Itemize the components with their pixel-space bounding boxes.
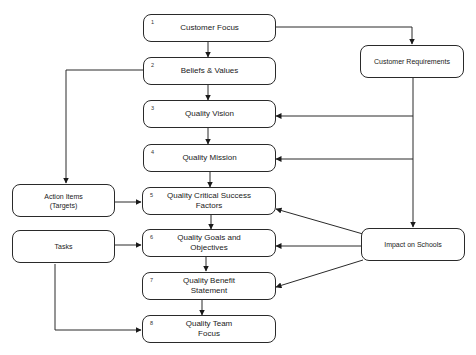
step-goals-objectives: 6 Quality Goals and Objectives	[142, 229, 276, 257]
arrow-impact-5	[276, 209, 363, 234]
box-label: Impact on Schools	[384, 240, 442, 249]
step-number: 5	[150, 190, 153, 200]
step-number: 8	[150, 318, 153, 328]
step-quality-mission: 4 Quality Mission	[143, 144, 276, 172]
step-label: Customer Focus	[180, 23, 239, 33]
step-number: 3	[151, 103, 154, 113]
tasks-box: Tasks	[12, 230, 115, 263]
box-label: Action Items (Targets)	[44, 192, 83, 210]
step-customer-focus: 1 Customer Focus	[143, 14, 276, 42]
action-items-box: Action Items (Targets)	[12, 184, 115, 217]
step-critical-success-factors: 5 Quality Critical Success Factors	[142, 187, 276, 215]
step-beliefs-values: 2 Beliefs & Values	[143, 57, 276, 85]
arrow-1-req	[276, 27, 412, 44]
step-number: 4	[151, 147, 154, 157]
step-quality-vision: 3 Quality Vision	[143, 100, 276, 128]
step-label: Quality Mission	[182, 153, 236, 163]
step-label: Quality Critical Success Factors	[167, 191, 251, 211]
step-team-focus: 8 Quality Team Focus	[142, 315, 276, 343]
box-label: Tasks	[55, 242, 73, 251]
step-number: 7	[150, 275, 153, 285]
step-label: Quality Team Focus	[186, 319, 233, 339]
arrow-impact-7	[276, 260, 363, 287]
arrow-2-action	[66, 70, 143, 183]
customer-requirements-box: Customer Requirements	[360, 45, 464, 78]
arrow-tasks-8	[55, 264, 141, 330]
step-label: Quality Benefit Statement	[183, 276, 235, 296]
box-label: Customer Requirements	[374, 57, 450, 66]
step-number: 1	[151, 17, 154, 27]
step-number: 2	[151, 60, 154, 70]
step-label: Quality Goals and Objectives	[177, 233, 241, 253]
step-label: Quality Vision	[185, 109, 234, 119]
step-benefit-statement: 7 Quality Benefit Statement	[142, 272, 276, 300]
step-label: Beliefs & Values	[181, 66, 239, 76]
impact-on-schools-box: Impact on Schools	[361, 228, 465, 261]
step-number: 6	[150, 232, 153, 242]
